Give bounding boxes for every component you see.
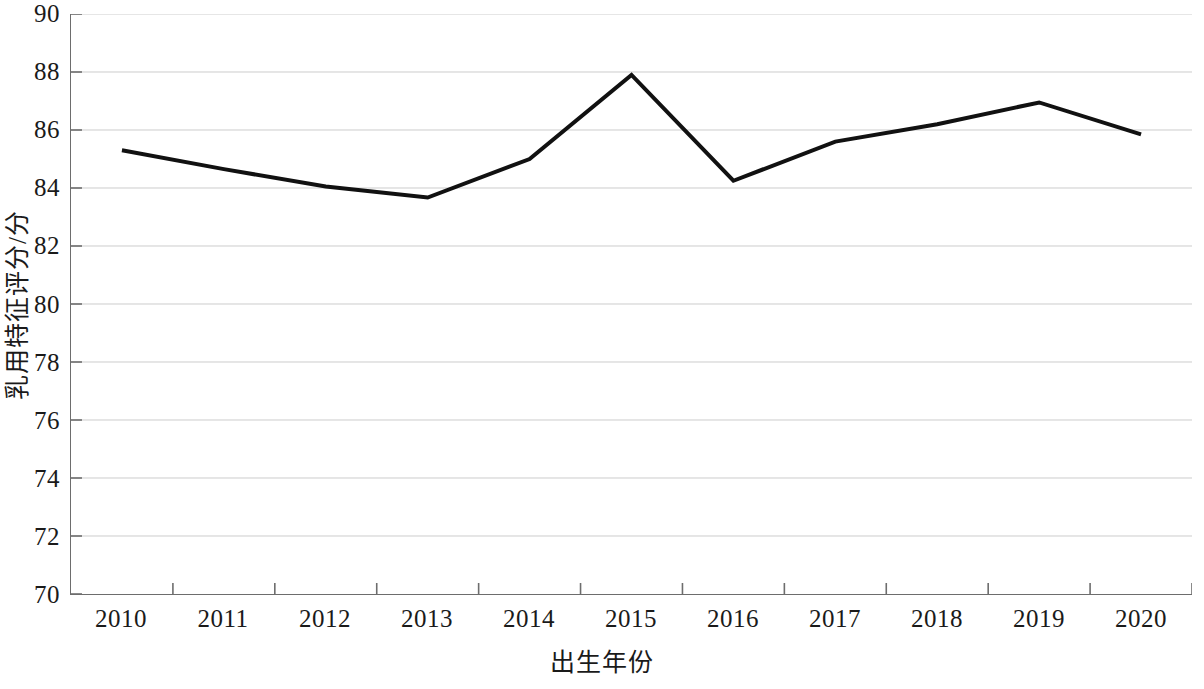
x-axis-tick-label: 2011 xyxy=(197,604,248,634)
data-line xyxy=(122,75,1141,198)
y-axis-tick-label: 86 xyxy=(0,117,60,142)
x-axis-tick-label: 2010 xyxy=(95,604,147,634)
gridlines xyxy=(71,14,1192,536)
y-axis-tick-label: 74 xyxy=(0,466,60,491)
x-axis-tick-label: 2016 xyxy=(707,604,759,634)
x-axis-tick-label: 2014 xyxy=(503,604,555,634)
line-chart: 9088868482807876747270 乳用特征评分/分 20102011… xyxy=(0,0,1204,689)
x-axis-ticks xyxy=(173,583,1192,594)
x-axis-tick-label: 2020 xyxy=(1115,604,1167,634)
y-axis-title: 乳用特征评分/分 xyxy=(5,175,31,435)
y-axis-tick-label: 88 xyxy=(0,59,60,84)
x-axis-tick-labels: 2010201120122013201420152016201720182019… xyxy=(70,604,1192,640)
y-axis-tick-label: 90 xyxy=(0,1,60,26)
x-axis-tick-label: 2018 xyxy=(911,604,963,634)
data-series xyxy=(122,75,1141,198)
x-axis-tick-label: 2017 xyxy=(809,604,861,634)
x-axis-tick-label: 2015 xyxy=(605,604,657,634)
x-axis-tick-label: 2012 xyxy=(299,604,351,634)
plot-area xyxy=(70,14,1192,595)
y-axis-ticks xyxy=(71,14,82,594)
y-axis-tick-label: 70 xyxy=(0,582,60,607)
y-axis-tick-label: 72 xyxy=(0,524,60,549)
x-axis-title: 出生年份 xyxy=(0,648,1204,678)
x-axis-tick-label: 2013 xyxy=(401,604,453,634)
plot-svg xyxy=(71,14,1192,594)
x-axis-tick-label: 2019 xyxy=(1013,604,1065,634)
